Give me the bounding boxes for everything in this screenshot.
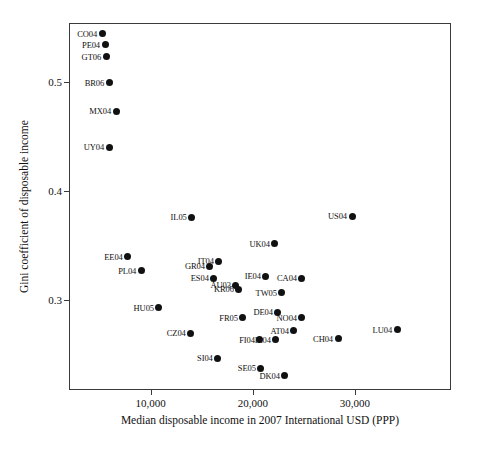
data-point	[349, 213, 356, 220]
data-point-label: CO04	[77, 29, 98, 39]
data-point-label: TW05	[256, 288, 278, 298]
data-point-label: EE04	[104, 252, 123, 262]
data-point-label: CA04	[277, 273, 298, 283]
data-point	[106, 144, 113, 151]
data-point-label: HU05	[134, 303, 155, 313]
data-point-label: IE04	[245, 271, 262, 281]
y-axis-title: Gini coefficient of disposable income	[18, 23, 38, 390]
x-axis-tick-mark	[253, 390, 254, 395]
data-point	[262, 273, 269, 280]
y-axis-tick-mark	[64, 300, 69, 301]
data-point-label: BR06	[85, 78, 105, 88]
y-axis-tick-label: 0.3	[48, 294, 62, 306]
data-point	[394, 326, 401, 333]
plot-area: CO04PE04GT06BR06MX04UY04IL05US04UK04EE04…	[69, 23, 451, 390]
x-axis-tick-label: 20,000	[238, 397, 268, 409]
y-axis-tick-mark	[64, 82, 69, 83]
data-point	[271, 240, 278, 247]
data-point	[187, 330, 194, 337]
data-point-label: FR05	[219, 313, 239, 323]
x-axis-tick-label: 10,000	[136, 397, 166, 409]
data-point-label: IL05	[171, 212, 188, 222]
data-point	[188, 214, 195, 221]
data-point-label: SI04	[197, 353, 214, 363]
data-point	[106, 79, 113, 86]
data-point-label: KR06	[214, 284, 235, 294]
data-point-label: DE04	[253, 307, 273, 317]
x-axis-title: Median disposable income in 2007 Interna…	[69, 414, 451, 426]
data-point	[138, 267, 145, 274]
data-point	[239, 314, 246, 321]
data-point-label: MX04	[89, 106, 112, 116]
data-point	[298, 275, 305, 282]
data-point	[214, 355, 221, 362]
data-point	[235, 286, 242, 293]
data-point-label: CZ04	[167, 328, 187, 338]
data-point-label: CH04	[313, 334, 334, 344]
data-point	[99, 30, 106, 37]
data-point-label: LU04	[373, 325, 393, 335]
data-point-label: ES04	[191, 273, 210, 283]
data-point	[278, 289, 285, 296]
data-point-label: AT04	[270, 326, 290, 336]
data-point-label: GR04	[185, 261, 206, 271]
data-point	[215, 258, 222, 265]
data-point	[272, 336, 279, 343]
data-point	[281, 372, 288, 379]
data-point-label: NO04	[277, 313, 298, 323]
x-axis-tick-mark	[151, 390, 152, 395]
y-axis-ticks: 0.30.40.5	[69, 23, 70, 390]
data-point	[113, 108, 120, 115]
data-point	[206, 263, 213, 270]
data-point-label: US04	[328, 211, 348, 221]
data-point	[335, 335, 342, 342]
data-point-label: IL04	[255, 335, 272, 345]
data-point-label: SE05	[238, 363, 257, 373]
data-point	[298, 314, 305, 321]
data-point	[155, 304, 162, 311]
data-point-label: FI04	[239, 335, 256, 345]
y-axis-tick-label: 0.5	[48, 76, 62, 88]
data-point-label: UY04	[84, 142, 105, 152]
data-point-label: GT06	[82, 52, 102, 62]
y-axis-tick-label: 0.4	[48, 185, 62, 197]
scatter-plot-figure: CO04PE04GT06BR06MX04UY04IL05US04UK04EE04…	[0, 0, 480, 449]
data-point-label: UK04	[250, 239, 271, 249]
data-point-label: DK04	[260, 371, 281, 381]
x-axis-tick-mark	[355, 390, 356, 395]
data-point	[103, 53, 110, 60]
data-point	[124, 253, 131, 260]
x-axis-tick-label: 30,000	[340, 397, 370, 409]
y-axis-tick-mark	[64, 191, 69, 192]
data-point	[290, 327, 297, 334]
data-point	[102, 41, 109, 48]
data-point-label: PE04	[82, 40, 101, 50]
data-point-label: PL04	[118, 266, 137, 276]
